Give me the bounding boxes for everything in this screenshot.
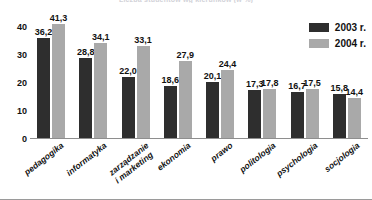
legend-item[interactable]: 2003 r. [309,22,366,33]
bar-value-label: 22,0 [119,67,137,76]
bar-2003: 16,7 [291,92,304,138]
bar-2003: 17,3 [248,90,261,138]
bar-group: 28,834,1 [72,16,114,138]
bar-2003: 20,1 [206,82,219,138]
legend-swatch-icon [309,39,329,48]
x-category-label: psychologia [275,141,320,179]
bar-2004: 27,9 [179,61,192,138]
bar-value-label: 34,1 [92,33,110,42]
y-tick-label: 10 [0,106,27,116]
bar-2003: 22,0 [122,77,135,138]
bar-value-label: 24,4 [219,60,237,69]
bar-2003: 36,2 [37,38,50,138]
chart-title: Liczba studentów wg kierunków (w %) [0,0,372,3]
legend-item[interactable]: 2004 r. [309,38,366,49]
bar-2003: 28,8 [79,58,92,138]
bar-2004: 17,5 [306,89,319,138]
bar-group: 17,317,8 [241,16,283,138]
bar-2003: 18,6 [164,86,177,138]
y-tick-label: 20 [0,78,27,88]
bar-value-label: 14,4 [346,88,364,97]
chart-legend: 2003 r.2004 r. [309,22,366,49]
y-tick-label: 0 [0,134,27,144]
x-category-label: informatyka [65,141,109,178]
bar-value-label: 17,5 [303,79,321,88]
bar-2004: 17,8 [263,89,276,138]
bar-group: 20,124,4 [199,16,241,138]
x-category-label: pedagogika [23,141,66,178]
legend-swatch-icon [309,23,329,32]
bar-value-label: 18,6 [162,76,180,85]
bar-group: 36,241,3 [30,16,72,138]
x-axis-labels: pedagogikainformatykazarządzaniei market… [30,141,368,199]
y-axis: 010203040 [0,16,27,139]
x-category-label: socjologia [323,141,362,175]
y-tick-label: 40 [0,22,27,32]
bar-group: 22,033,1 [115,16,157,138]
bar-value-label: 33,1 [134,36,152,45]
legend-label: 2003 r. [335,22,366,33]
x-category-label: prawo [210,141,236,164]
bar-2004: 41,3 [52,24,65,139]
bar-group: 18,627,9 [157,16,199,138]
x-category-label: politologia [238,141,278,175]
bar-value-label: 20,1 [204,72,222,81]
bar-value-label: 28,8 [77,48,95,57]
bar-value-label: 36,2 [35,28,53,37]
x-category-label: zarządzaniei marketing [107,141,157,186]
legend-label: 2004 r. [335,38,366,49]
bar-value-label: 27,9 [177,51,195,60]
y-tick-label: 30 [0,50,27,60]
x-category-label: ekonomia [156,141,193,173]
bar-2004: 33,1 [137,46,150,138]
bar-2004: 14,4 [348,98,361,138]
bar-chart: Liczba studentów wg kierunków (w %) 0102… [0,0,372,200]
bar-value-label: 17,8 [261,79,279,88]
bar-2003: 15,8 [333,94,346,138]
bar-value-label: 41,3 [50,14,68,23]
bar-2004: 24,4 [221,70,234,138]
x-axis-baseline [30,138,368,139]
bar-2004: 34,1 [94,43,107,138]
